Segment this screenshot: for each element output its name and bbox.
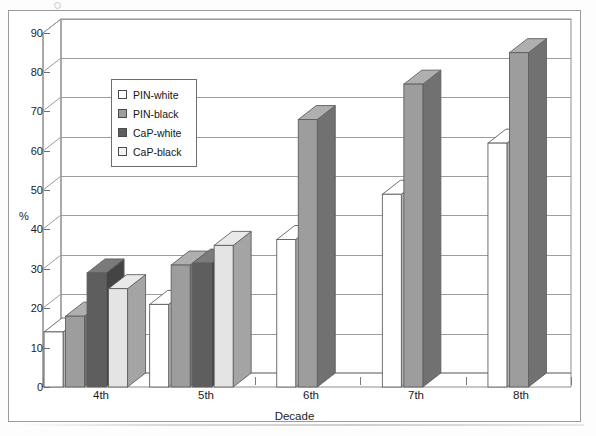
x-tick-mark xyxy=(255,377,256,385)
legend-label: PIN-white xyxy=(133,89,179,101)
x-tick-label: 7th xyxy=(386,389,446,401)
legend-item-pin-black: PIN-black xyxy=(118,104,190,123)
x-axis-title: Decade xyxy=(9,410,580,422)
legend-item-cap-black: CaP-black xyxy=(118,142,190,161)
legend-item-pin-white: PIN-white xyxy=(118,85,190,104)
x-axis: 4th 5th 6th 7th 8th xyxy=(9,11,580,421)
x-tick-mark xyxy=(466,377,467,385)
legend-swatch-pin-white xyxy=(118,90,127,99)
plot-area: 90 80 70 60 50 40 30 20 10 0 xyxy=(9,11,580,421)
x-tick-mark xyxy=(43,377,44,385)
legend-item-cap-white: CaP-white xyxy=(118,123,190,142)
chart-frame: 90 80 70 60 50 40 30 20 10 0 xyxy=(8,10,581,422)
legend-swatch-cap-white xyxy=(118,128,127,137)
x-tick-label: 5th xyxy=(176,389,236,401)
x-tick-label: 4th xyxy=(71,389,131,401)
scan-speck-artifact xyxy=(54,2,61,9)
legend-swatch-pin-black xyxy=(118,109,127,118)
x-tick-label: 8th xyxy=(491,389,551,401)
x-tick-mark xyxy=(571,377,572,385)
x-tick-mark xyxy=(149,377,150,385)
legend-swatch-cap-black xyxy=(118,147,127,156)
scanned-page-background: 90 80 70 60 50 40 30 20 10 0 xyxy=(0,0,596,436)
page-bottom-edge xyxy=(6,424,584,426)
legend-label: CaP-white xyxy=(133,127,181,139)
legend-label: CaP-black xyxy=(133,146,181,158)
chart-legend: PIN-white PIN-black CaP-white CaP-black xyxy=(111,79,197,167)
x-tick-mark xyxy=(360,377,361,385)
x-tick-label: 6th xyxy=(281,389,341,401)
legend-label: PIN-black xyxy=(133,108,179,120)
